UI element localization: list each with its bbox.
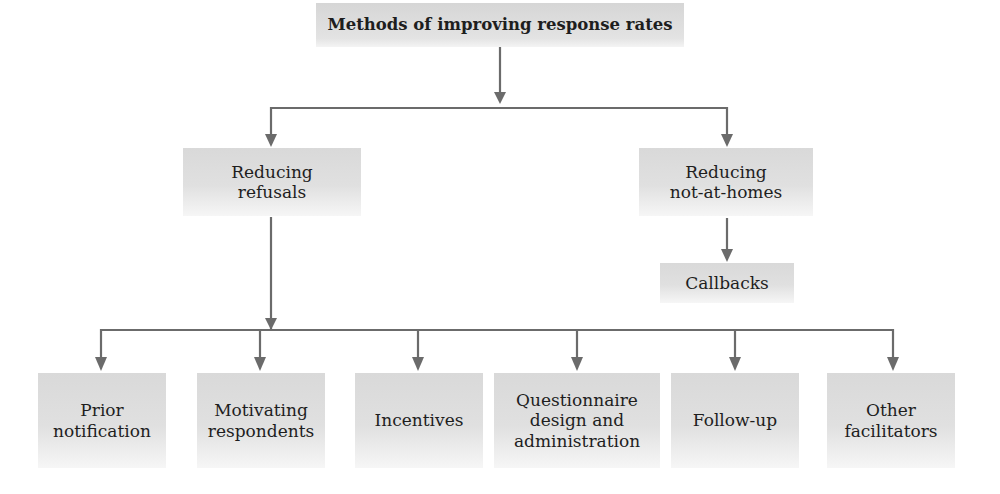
node-label-line: notification <box>53 421 151 441</box>
arrow-icon <box>265 134 277 147</box>
node-reducing-refusals: Reducing refusals <box>183 148 361 216</box>
arrow-icon <box>254 357 266 371</box>
node-label-line: Reducing <box>231 162 312 182</box>
node-label-line: administration <box>514 431 640 451</box>
arrow-icon <box>721 134 733 147</box>
node-label-line: Questionnaire <box>514 390 640 410</box>
node-label-line: refusals <box>231 182 312 202</box>
node-label-line: Other <box>844 400 937 420</box>
arrow-icon <box>95 357 107 371</box>
arrow-icon <box>887 357 899 371</box>
root-node: Methods of improving response rates <box>316 3 684 47</box>
arrow-icon <box>494 92 506 104</box>
node-label-line: not-at-homes <box>670 182 783 202</box>
arrow-icon <box>265 318 277 330</box>
arrow-icon <box>571 357 583 371</box>
arrow-icon <box>729 357 741 371</box>
node-label-line: Callbacks <box>685 273 769 293</box>
flowchart: Methods of improving response rates Redu… <box>0 0 1000 494</box>
node-label-line: Prior <box>53 400 151 420</box>
node-questionnaire-design: Questionnaire design and administration <box>494 373 660 468</box>
node-prior-notification: Prior notification <box>38 373 166 468</box>
node-reducing-not-at-homes: Reducing not-at-homes <box>639 148 813 216</box>
node-motivating-respondents: Motivating respondents <box>197 373 325 468</box>
node-label-line: Reducing <box>670 162 783 182</box>
node-follow-up: Follow-up <box>671 373 799 468</box>
node-label-line: Follow-up <box>693 410 777 430</box>
node-label-line: respondents <box>208 421 314 441</box>
arrow-icon <box>721 249 733 262</box>
node-label-line: Incentives <box>375 410 464 430</box>
node-label-line: facilitators <box>844 421 937 441</box>
node-incentives: Incentives <box>355 373 483 468</box>
node-callbacks: Callbacks <box>660 263 794 303</box>
node-label-line: Motivating <box>208 400 314 420</box>
node-label-line: design and <box>514 410 640 430</box>
root-node-label: Methods of improving response rates <box>327 15 672 35</box>
arrow-icon <box>412 357 424 371</box>
node-other-facilitators: Other facilitators <box>827 373 955 468</box>
